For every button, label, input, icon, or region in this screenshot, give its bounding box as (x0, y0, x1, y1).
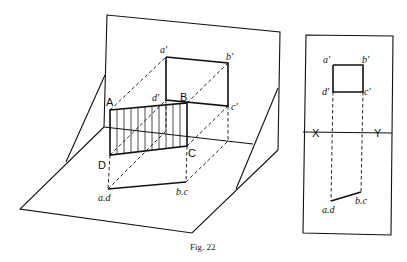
figure-caption: Fig. 22 (190, 242, 216, 252)
top-view-line (108, 182, 186, 189)
figure-22-diagram: a' b' c' d' A B C D a.d b.c Fig. 22 a' b… (0, 0, 407, 262)
pictorial-view: a' b' c' d' A B C D a.d b.c (20, 15, 280, 233)
label-D: D (98, 159, 106, 171)
ortho-label-c-prime: c' (364, 86, 371, 97)
left-profile-plane (66, 75, 105, 162)
ortho-label-b-prime: b' (362, 54, 370, 65)
ortho-label-bc: b.c (355, 195, 368, 206)
label-A: A (106, 96, 114, 108)
right-profile-plane (236, 88, 278, 189)
projectors (108, 57, 228, 189)
ortho-label-a-prime: a' (323, 54, 331, 65)
label-b-prime: b' (226, 51, 234, 62)
label-bc: b.c (176, 186, 189, 197)
ortho-label-ad: a.d (322, 204, 336, 215)
orthographic-view: a' b' c' d' X Y a.d b.c (303, 35, 393, 235)
ortho-label-d-prime: d' (322, 86, 330, 97)
xy-intersection-line (104, 127, 253, 144)
label-B: B (180, 91, 187, 103)
front-view-rect (166, 57, 228, 106)
label-C: C (188, 147, 196, 159)
label-c-prime: c' (231, 101, 238, 112)
label-Y: Y (374, 127, 382, 139)
label-a-prime: a' (160, 44, 168, 55)
front-view-square (333, 65, 363, 92)
label-X: X (312, 127, 320, 139)
label-ad: a.d (98, 192, 112, 203)
label-d-prime: d' (152, 92, 160, 103)
